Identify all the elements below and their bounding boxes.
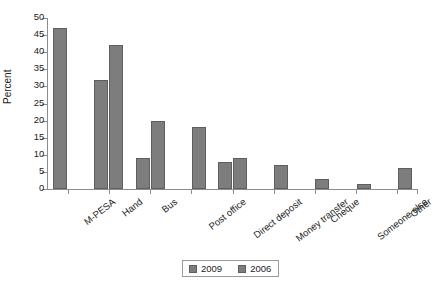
x-axis-label-bus: Bus	[160, 196, 180, 215]
bar-2006-post-office	[192, 127, 206, 189]
bar-2006-direct-deposit	[233, 158, 247, 189]
y-tick-label: 30	[34, 79, 44, 90]
bar-2009-m-pesa	[53, 28, 67, 189]
x-tick-mark	[397, 190, 398, 194]
bar-2006-other	[398, 168, 412, 189]
x-axis-label-post-office: Post office	[207, 196, 249, 232]
legend-item-2006[interactable]: 2006	[238, 263, 271, 274]
bar-2009-hand	[94, 80, 108, 189]
y-axis-title: Percent	[2, 70, 13, 104]
x-tick-mark	[68, 190, 69, 194]
bar-2006-bus	[151, 121, 165, 189]
bar-2006-cheque	[315, 179, 329, 189]
y-axis-line	[47, 18, 48, 190]
legend-swatch-icon	[189, 265, 197, 273]
x-axis-label-m-pesa: M-PESA	[81, 196, 116, 227]
x-tick-mark	[150, 190, 151, 194]
legend-label: 2009	[201, 263, 222, 274]
bar-group	[300, 18, 329, 189]
bar-chart-figure: Percent 05101520253035404550 M-PESAHandB…	[0, 0, 433, 285]
x-tick-mark	[315, 190, 316, 194]
y-tick-label: 10	[34, 148, 44, 159]
x-tick-mark	[356, 190, 357, 194]
legend-item-2009[interactable]: 2009	[189, 263, 222, 274]
y-tick-label: 45	[34, 28, 44, 39]
x-tick-mark	[417, 190, 418, 194]
legend-label: 2006	[250, 263, 271, 274]
bar-2006-someone-else	[357, 184, 371, 189]
x-tick-mark	[191, 190, 192, 194]
bar-2009-direct-deposit	[218, 162, 232, 189]
bar-group	[383, 18, 412, 189]
y-tick-label: 50	[34, 11, 44, 22]
y-tick-label: 5	[39, 165, 44, 176]
bar-2006-hand	[109, 45, 123, 189]
x-axis-label-hand: Hand	[120, 196, 145, 219]
bar-group	[218, 18, 247, 189]
y-tick-label: 25	[34, 97, 44, 108]
legend-swatch-icon	[238, 265, 246, 273]
x-tick-mark	[233, 190, 234, 194]
y-tick-label: 35	[34, 62, 44, 73]
x-tick-mark	[274, 190, 275, 194]
y-tick-label: 0	[39, 182, 44, 193]
chart-legend: 20092006	[182, 260, 279, 277]
y-tick-label: 40	[34, 45, 44, 56]
x-axis-label-other: Other	[408, 196, 433, 219]
bar-group	[136, 18, 165, 189]
bar-group	[53, 18, 82, 189]
bar-group	[342, 18, 371, 189]
bar-2009-bus	[136, 158, 150, 189]
plot-area: 05101520253035404550	[47, 18, 418, 190]
bar-group	[177, 18, 206, 189]
bar-group	[94, 18, 123, 189]
y-tick-label: 20	[34, 114, 44, 125]
y-tick-label: 15	[34, 131, 44, 142]
x-tick-mark	[109, 190, 110, 194]
bar-group	[259, 18, 288, 189]
bar-2006-money-transfer	[274, 165, 288, 189]
